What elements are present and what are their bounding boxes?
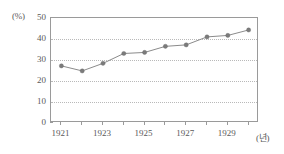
x-axis-tick-label: 1921: [51, 128, 69, 138]
data-point: [184, 43, 188, 47]
data-point: [205, 35, 209, 39]
x-axis-tick-mark: [60, 122, 61, 125]
y-axis-tick-label: 50: [28, 12, 46, 22]
y-axis-tick-labels: 50403020100: [26, 17, 46, 122]
data-point: [80, 69, 84, 73]
y-axis-tick-label: 30: [28, 54, 46, 64]
chart-screenshot: (%) (년) 50403020100 19211923192519271929: [0, 0, 284, 154]
x-axis-tick-mark: [81, 122, 82, 125]
x-axis-tick-label: 1923: [93, 128, 111, 138]
data-point: [59, 64, 63, 68]
plot-inner: [51, 18, 257, 121]
data-series: [51, 18, 259, 123]
x-axis-tick-label: 1925: [135, 128, 153, 138]
data-point: [163, 44, 167, 48]
x-axis-tick-mark: [102, 122, 103, 125]
series-markers: [59, 28, 250, 73]
data-point: [247, 28, 251, 32]
x-axis-tick-mark: [227, 122, 228, 125]
x-axis-tick-mark: [164, 122, 165, 125]
data-point: [101, 61, 105, 65]
x-axis-tick-mark: [123, 122, 124, 125]
y-axis-tick-label: 0: [28, 117, 46, 127]
x-axis-tick-label: 1929: [218, 128, 236, 138]
x-axis-tick-marks: [50, 122, 258, 126]
data-point: [143, 50, 147, 54]
y-axis-unit-label: (%): [12, 11, 25, 21]
x-axis-tick-mark: [185, 122, 186, 125]
data-point: [122, 51, 126, 55]
y-axis-tick-label: 10: [28, 96, 46, 106]
y-axis-tick-label: 40: [28, 33, 46, 43]
series-line: [61, 30, 248, 71]
x-axis-tick-mark: [144, 122, 145, 125]
y-axis-tick-label: 20: [28, 75, 46, 85]
x-axis-tick-label: 1927: [176, 128, 194, 138]
x-axis-unit-label: (년): [256, 131, 269, 144]
x-axis-tick-mark: [206, 122, 207, 125]
data-point: [226, 33, 230, 37]
x-axis-tick-mark: [248, 122, 249, 125]
x-axis-tick-labels: 19211923192519271929: [50, 128, 258, 142]
plot-area: [50, 17, 258, 122]
